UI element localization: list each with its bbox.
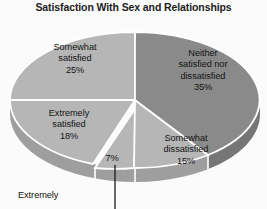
slice-label-line-2: satisfied <box>25 53 125 64</box>
slice-label-line-2: dissatisfied <box>136 144 236 155</box>
slice-label-extremely-dissatisfied-percent: 7% <box>97 153 127 164</box>
slice-label-percent: 25% <box>25 65 125 76</box>
slice-label-extremely-satisfied: Extremely satisfied 18% <box>24 108 114 142</box>
slice-label-somewhat-dissatisfied: Somewhat dissatisfied 15% <box>136 133 236 167</box>
slice-label-line-2: satisfied <box>24 119 114 130</box>
slice-label-line-3: dissatisfied <box>155 71 251 82</box>
slice-label-percent: 35% <box>155 82 251 93</box>
slice-label-line-2: satisfied nor <box>155 59 251 70</box>
slice-label-percent: 15% <box>136 156 236 167</box>
slice-label-extremely-dissatisfied-text: Extremely <box>18 190 98 201</box>
slice-label-line-1: Somewhat <box>25 42 125 53</box>
pie-chart-figure: Satisfaction With Sex and Relationships <box>0 0 267 209</box>
slice-label-line-1: Extremely <box>24 108 114 119</box>
slice-label-line-1: Somewhat <box>136 133 236 144</box>
pie-chart-graphic <box>0 0 267 209</box>
slice-label-line-1: Neither <box>155 48 251 59</box>
slice-label-neither-satisfied-nor-dissatisfied: Neither satisfied nor dissatisfied 35% <box>155 48 251 93</box>
slice-label-somewhat-satisfied: Somewhat satisfied 25% <box>25 42 125 76</box>
slice-label-percent: 18% <box>24 131 114 142</box>
